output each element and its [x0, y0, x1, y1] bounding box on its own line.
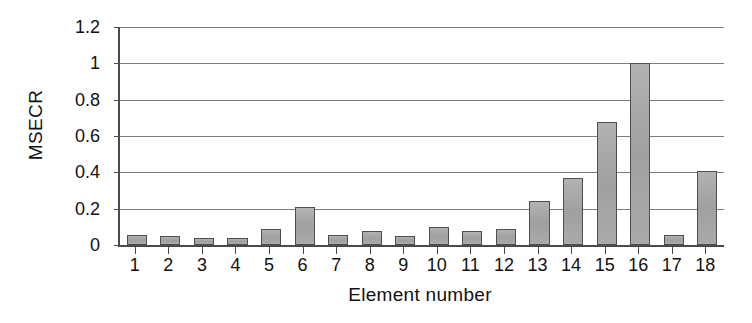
x-axis-tick-label: 4: [230, 255, 240, 276]
x-axis-tick-label: 1: [130, 255, 140, 276]
x-axis-slot: 8: [353, 247, 387, 281]
x-axis-tick-label: 8: [365, 255, 375, 276]
bar: [227, 238, 247, 245]
bar: [395, 236, 415, 245]
bar-slot: [556, 27, 590, 245]
x-axis-tick-label: 6: [298, 255, 308, 276]
x-axis-tickmark: [638, 247, 639, 254]
y-axis-tick-label: 1.2: [75, 17, 100, 38]
bar: [160, 236, 180, 245]
plot-area: [118, 27, 724, 247]
x-axis-slot: 15: [588, 247, 622, 281]
bar: [362, 231, 382, 245]
bar: [496, 229, 516, 245]
x-axis-slot: 3: [185, 247, 219, 281]
x-axis-tick-label: 17: [662, 255, 682, 276]
y-axis-title: MSECR: [14, 0, 58, 250]
x-axis-tick-label: 13: [528, 255, 548, 276]
y-axis-tick-label: 1: [90, 53, 100, 74]
y-axis-tickmark: [114, 63, 120, 64]
bar: [529, 201, 549, 246]
x-axis-slot: 7: [319, 247, 353, 281]
x-axis-slot: 2: [152, 247, 186, 281]
bar-slot: [657, 27, 691, 245]
bar-slot: [221, 27, 255, 245]
x-axis-tick-label: 12: [494, 255, 514, 276]
x-axis-slot: 18: [689, 247, 723, 281]
x-axis-tick-label: 11: [461, 255, 480, 276]
x-axis-tickmark: [168, 247, 169, 254]
bar: [462, 231, 482, 245]
bar: [261, 229, 281, 245]
y-axis-tickmark: [114, 209, 120, 210]
y-axis-title-text: MSECR: [25, 90, 47, 161]
x-axis-slot: 14: [554, 247, 588, 281]
y-axis-tickmark: [114, 100, 120, 101]
x-axis-slot: 16: [621, 247, 655, 281]
x-axis-tickmark: [235, 247, 236, 254]
x-axis-tickmark: [437, 247, 438, 254]
x-axis-tickmark: [202, 247, 203, 254]
y-axis-tickmark: [114, 27, 120, 28]
x-axis-tick-label: 18: [695, 255, 715, 276]
x-axis-slot: 13: [521, 247, 555, 281]
y-axis-tickmark: [114, 245, 120, 246]
x-axis-tickmark: [605, 247, 606, 254]
x-axis-tickmark: [571, 247, 572, 254]
bar: [194, 238, 214, 245]
x-axis-tickmark: [705, 247, 706, 254]
bar-slot: [523, 27, 557, 245]
x-axis-tick-label: 14: [561, 255, 581, 276]
y-axis-tick-label: 0.6: [75, 126, 100, 147]
y-axis-tick-label: 0.2: [75, 198, 100, 219]
x-axis-slot: 1: [118, 247, 152, 281]
bar-slot: [288, 27, 322, 245]
bar-slot: [187, 27, 221, 245]
x-axis-tickmark: [303, 247, 304, 254]
bar: [697, 171, 717, 245]
x-axis-tickmark: [403, 247, 404, 254]
bar-slot: [389, 27, 423, 245]
bars-series: [120, 27, 724, 245]
x-axis-tickmark: [135, 247, 136, 254]
x-axis-tick-label: 5: [264, 255, 274, 276]
x-axis-tick-label: 16: [628, 255, 648, 276]
y-axis-tick-label: 0.8: [75, 89, 100, 110]
x-axis-tick-label: 7: [331, 255, 341, 276]
bar-slot: [456, 27, 490, 245]
bar: [563, 178, 583, 245]
x-axis-tick-labels: 123456789101112131415161718: [118, 247, 722, 281]
bar-slot: [422, 27, 456, 245]
x-axis-slot: 5: [252, 247, 286, 281]
y-axis-tickmark: [114, 172, 120, 173]
y-axis-tick-label: 0.4: [75, 162, 100, 183]
bar-slot: [154, 27, 188, 245]
x-axis-tick-label: 10: [427, 255, 447, 276]
bar: [630, 63, 650, 245]
x-axis-tickmark: [269, 247, 270, 254]
bar-slot: [355, 27, 389, 245]
bar-slot: [691, 27, 725, 245]
x-axis-slot: 6: [286, 247, 320, 281]
bar-slot: [321, 27, 355, 245]
bar: [597, 122, 617, 245]
x-axis-tickmark: [370, 247, 371, 254]
x-axis-tickmark: [672, 247, 673, 254]
x-axis-tickmark: [470, 247, 471, 254]
x-axis-tick-label: 3: [197, 255, 207, 276]
bar: [429, 227, 449, 245]
bar-chart: MSECR 00.20.40.60.811.2 1234567891011121…: [0, 0, 752, 323]
x-axis-tickmark: [336, 247, 337, 254]
x-axis-slot: 4: [219, 247, 253, 281]
x-axis-slot: 12: [487, 247, 521, 281]
y-axis-tick-labels: 00.20.40.60.811.2: [56, 27, 108, 245]
x-axis-tickmark: [504, 247, 505, 254]
x-axis-tick-label: 9: [398, 255, 408, 276]
x-axis-tick-label: 2: [163, 255, 173, 276]
bar: [664, 235, 684, 245]
bar-slot: [489, 27, 523, 245]
bar: [295, 207, 315, 245]
y-axis-tick-label: 0: [90, 235, 100, 256]
x-axis-tick-label: 15: [595, 255, 615, 276]
bar-slot: [254, 27, 288, 245]
